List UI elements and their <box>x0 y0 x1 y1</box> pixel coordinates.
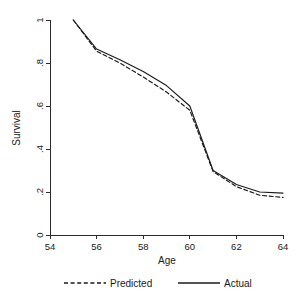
chart-canvas: 0.2.4.6.81 Survival 545658606264 Age Pre… <box>0 0 300 299</box>
y-tick-label: .8 <box>34 59 45 67</box>
series-actual <box>73 20 283 193</box>
y-tick-label: .2 <box>34 188 45 196</box>
chart-legend: PredictedActual <box>64 278 252 289</box>
y-tick-label: .6 <box>34 102 45 110</box>
y-axis-ticks: 0.2.4.6.81 <box>34 17 50 237</box>
x-axis-ticks: 545658606264 <box>45 235 289 252</box>
x-tick-label: 54 <box>45 241 56 252</box>
data-series-group <box>73 20 283 197</box>
y-tick-label: 0 <box>34 232 45 237</box>
x-axis-title: Age <box>158 255 176 266</box>
x-axis-group: 545658606264 Age <box>45 235 289 266</box>
y-tick-label: 1 <box>34 17 45 22</box>
legend-label-predicted: Predicted <box>110 278 152 289</box>
x-tick-label: 56 <box>91 241 102 252</box>
x-tick-label: 64 <box>278 241 289 252</box>
x-tick-label: 58 <box>138 241 149 252</box>
x-tick-label: 62 <box>231 241 242 252</box>
y-tick-label: .4 <box>34 145 45 153</box>
series-predicted <box>73 20 283 197</box>
y-axis-title: Survival <box>11 110 22 146</box>
survival-chart: 0.2.4.6.81 Survival 545658606264 Age Pre… <box>0 0 300 299</box>
legend-label-actual: Actual <box>224 278 252 289</box>
x-tick-label: 60 <box>185 241 196 252</box>
y-axis-group: 0.2.4.6.81 Survival <box>11 17 50 237</box>
